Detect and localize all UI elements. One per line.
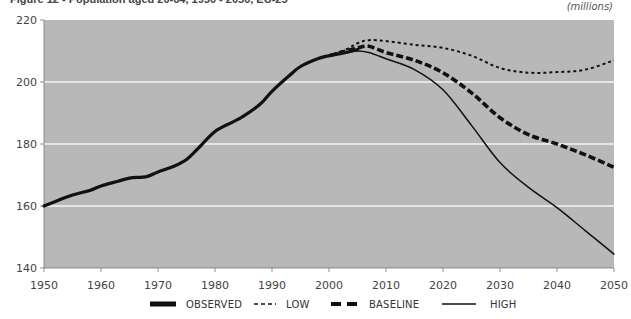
x-tick-label: 2020: [429, 279, 457, 292]
legend-label-low: LOW: [286, 299, 310, 310]
legend-item-baseline: BASELINE: [331, 296, 419, 312]
x-tick-label: 2000: [315, 279, 343, 292]
legend-label-high: HIGH: [490, 299, 517, 310]
legend-item-low: LOW: [254, 296, 310, 312]
x-tick-label: 1980: [201, 279, 229, 292]
x-tick-label: 2050: [600, 279, 628, 292]
legend: OBSERVED LOW BASELINE HIGH: [0, 296, 631, 314]
high-solid-line-icon: [442, 300, 476, 308]
observed-line-icon: [150, 300, 176, 308]
x-tick-label: 2030: [486, 279, 514, 292]
baseline-dashed-line-icon: [331, 300, 359, 308]
x-tick-label: 1970: [144, 279, 172, 292]
low-dotted-line-icon: [254, 300, 276, 308]
x-tick-label: 1960: [87, 279, 115, 292]
y-tick-label: 180: [16, 138, 37, 151]
y-tick-label: 220: [16, 14, 37, 27]
y-tick-label: 160: [16, 200, 37, 213]
legend-item-observed: OBSERVED: [150, 296, 242, 312]
legend-label-observed: OBSERVED: [186, 299, 242, 310]
y-tick-label: 200: [16, 76, 37, 89]
line-chart: 1401601802002201950196019701980199020002…: [0, 0, 631, 319]
legend-label-baseline: BASELINE: [369, 299, 419, 310]
x-tick-label: 1990: [258, 279, 286, 292]
y-tick-label: 140: [16, 262, 37, 275]
x-tick-label: 1950: [30, 279, 58, 292]
x-tick-label: 2040: [543, 279, 571, 292]
x-tick-label: 2010: [372, 279, 400, 292]
legend-item-high: HIGH: [442, 296, 517, 312]
